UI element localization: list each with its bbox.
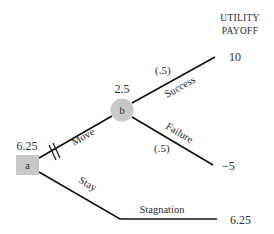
decision-node-value: 6.25 [17,139,38,153]
stagnation-label: Stagnation [140,204,186,215]
stay-branch-line [39,172,217,219]
utility-header-line1: UTILITY [220,13,260,23]
stay-label: Stay [77,174,99,193]
decision-node-label: a [25,160,30,171]
success-payoff: 10 [229,50,241,64]
success-probability: (.5) [155,64,171,77]
chance-node-label: b [119,105,124,116]
decision-tree-diagram: UTILITY PAYOFF Move Stay Stagnation 6.25… [0,0,274,234]
move-label: Move [70,126,97,148]
success-label: Success [163,74,197,100]
stagnation-payoff: 6.25 [230,213,251,227]
chance-node-value: 2.5 [115,82,130,96]
failure-payoff: −5 [222,159,235,173]
failure-probability: (.5) [154,142,170,155]
utility-header-line2: PAYOFF [222,26,259,36]
